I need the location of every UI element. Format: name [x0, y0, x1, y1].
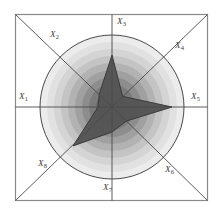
axis-label-x6: X6 [165, 165, 174, 174]
axis-label-x7: X7 [103, 183, 112, 192]
axis-label-x8: X8 [38, 159, 47, 168]
radar-plot-figure: X1 X2 X3 X4 X5 X6 X7 X8 [0, 0, 223, 215]
axis-label-x5: X5 [191, 92, 200, 101]
axis-label-x4: X4 [175, 41, 184, 50]
axis-label-x3: X3 [117, 17, 126, 26]
axis-label-x1: X1 [19, 92, 28, 101]
axis-label-x2: X2 [50, 30, 59, 39]
